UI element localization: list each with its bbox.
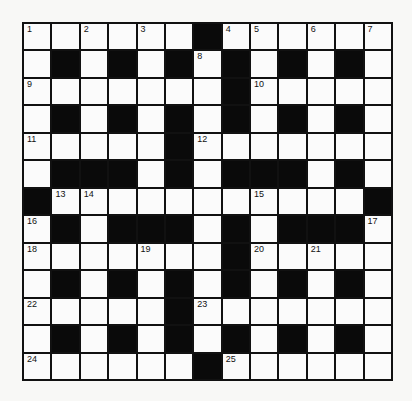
grid-cell[interactable] [138, 51, 164, 76]
grid-cell[interactable] [223, 299, 249, 324]
grid-cell[interactable] [365, 299, 391, 324]
grid-cell[interactable] [166, 189, 192, 214]
grid-cell[interactable] [138, 134, 164, 159]
grid-cell[interactable]: 21 [308, 244, 334, 269]
grid-cell[interactable] [109, 244, 135, 269]
grid-cell[interactable] [138, 354, 164, 379]
grid-cell[interactable] [24, 326, 50, 351]
grid-cell[interactable]: 6 [308, 24, 334, 49]
grid-cell[interactable] [308, 51, 334, 76]
grid-cell[interactable] [81, 216, 107, 241]
grid-cell[interactable] [336, 244, 362, 269]
grid-cell[interactable] [194, 216, 220, 241]
grid-cell[interactable] [24, 161, 50, 186]
grid-cell[interactable]: 19 [138, 244, 164, 269]
grid-cell[interactable] [138, 79, 164, 104]
grid-cell[interactable] [81, 326, 107, 351]
grid-cell[interactable] [251, 134, 277, 159]
grid-cell[interactable]: 7 [365, 24, 391, 49]
grid-cell[interactable]: 10 [251, 79, 277, 104]
grid-cell[interactable] [365, 354, 391, 379]
grid-cell[interactable] [365, 106, 391, 131]
grid-cell[interactable] [109, 24, 135, 49]
grid-cell[interactable] [109, 134, 135, 159]
grid-cell[interactable] [308, 134, 334, 159]
grid-cell[interactable] [279, 134, 305, 159]
grid-cell[interactable]: 18 [24, 244, 50, 269]
grid-cell[interactable] [81, 134, 107, 159]
grid-cell[interactable] [81, 79, 107, 104]
grid-cell[interactable]: 3 [138, 24, 164, 49]
grid-cell[interactable]: 25 [223, 354, 249, 379]
grid-cell[interactable] [365, 244, 391, 269]
grid-cell[interactable] [365, 326, 391, 351]
grid-cell[interactable] [251, 106, 277, 131]
grid-cell[interactable] [308, 79, 334, 104]
grid-cell[interactable]: 12 [194, 134, 220, 159]
grid-cell[interactable] [52, 299, 78, 324]
grid-cell[interactable] [52, 134, 78, 159]
grid-cell[interactable] [138, 271, 164, 296]
grid-cell[interactable]: 23 [194, 299, 220, 324]
grid-cell[interactable] [194, 189, 220, 214]
grid-cell[interactable] [52, 24, 78, 49]
grid-cell[interactable] [194, 79, 220, 104]
grid-cell[interactable] [81, 271, 107, 296]
grid-cell[interactable]: 15 [251, 189, 277, 214]
grid-cell[interactable]: 4 [223, 24, 249, 49]
grid-cell[interactable] [308, 106, 334, 131]
grid-cell[interactable] [308, 326, 334, 351]
grid-cell[interactable] [194, 106, 220, 131]
grid-cell[interactable]: 22 [24, 299, 50, 324]
grid-cell[interactable] [138, 299, 164, 324]
grid-cell[interactable] [251, 216, 277, 241]
grid-cell[interactable] [52, 244, 78, 269]
grid-cell[interactable]: 1 [24, 24, 50, 49]
grid-cell[interactable]: 5 [251, 24, 277, 49]
grid-cell[interactable] [138, 189, 164, 214]
grid-cell[interactable]: 11 [24, 134, 50, 159]
grid-cell[interactable] [166, 244, 192, 269]
grid-cell[interactable]: 2 [81, 24, 107, 49]
grid-cell[interactable] [279, 189, 305, 214]
grid-cell[interactable] [194, 244, 220, 269]
grid-cell[interactable] [365, 134, 391, 159]
grid-cell[interactable] [251, 354, 277, 379]
grid-cell[interactable] [109, 354, 135, 379]
grid-cell[interactable] [336, 79, 362, 104]
grid-cell[interactable] [81, 51, 107, 76]
grid-cell[interactable] [279, 244, 305, 269]
grid-cell[interactable] [109, 189, 135, 214]
grid-cell[interactable] [365, 161, 391, 186]
grid-cell[interactable] [194, 326, 220, 351]
grid-cell[interactable]: 8 [194, 51, 220, 76]
grid-cell[interactable]: 20 [251, 244, 277, 269]
grid-cell[interactable] [223, 189, 249, 214]
grid-cell[interactable] [251, 326, 277, 351]
grid-cell[interactable]: 9 [24, 79, 50, 104]
grid-cell[interactable] [279, 299, 305, 324]
grid-cell[interactable] [308, 189, 334, 214]
grid-cell[interactable] [138, 161, 164, 186]
grid-cell[interactable] [308, 354, 334, 379]
grid-cell[interactable] [52, 354, 78, 379]
grid-cell[interactable] [365, 79, 391, 104]
grid-cell[interactable] [308, 161, 334, 186]
grid-cell[interactable] [24, 271, 50, 296]
grid-cell[interactable] [24, 106, 50, 131]
grid-cell[interactable] [365, 271, 391, 296]
grid-cell[interactable] [138, 326, 164, 351]
grid-cell[interactable]: 17 [365, 216, 391, 241]
grid-cell[interactable] [336, 354, 362, 379]
grid-cell[interactable] [194, 161, 220, 186]
grid-cell[interactable] [194, 271, 220, 296]
grid-cell[interactable] [336, 134, 362, 159]
grid-cell[interactable] [24, 51, 50, 76]
grid-cell[interactable]: 13 [52, 189, 78, 214]
grid-cell[interactable] [279, 354, 305, 379]
grid-cell[interactable] [279, 24, 305, 49]
grid-cell[interactable] [138, 106, 164, 131]
grid-cell[interactable] [279, 79, 305, 104]
grid-cell[interactable] [223, 134, 249, 159]
grid-cell[interactable] [336, 24, 362, 49]
